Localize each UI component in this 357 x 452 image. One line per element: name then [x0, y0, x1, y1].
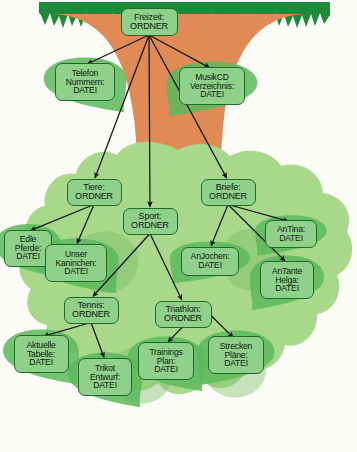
tree-node-anjochen[interactable]: AnJochen: DATEI [181, 247, 239, 276]
tree-node-sport[interactable]: Sport: ORDNER [123, 208, 178, 235]
tree-node-briefe[interactable]: Briefe: ORDNER [201, 179, 256, 206]
tree-node-aktuelle_tabelle[interactable]: Aktuelle Tabelle: DATEI [14, 335, 69, 373]
tree-node-trainings_plan[interactable]: Trainings Plan: DATEI [138, 342, 194, 380]
tree-node-strecken_plaene[interactable]: Strecken Pläne: DATEI [208, 336, 264, 374]
tree-diagram-canvas: Freizeit: ORDNERTelefon Nummern: DATEIMu… [0, 0, 357, 452]
tree-node-telefon_nummern[interactable]: Telefon Nummern: DATEI [55, 63, 115, 101]
tree-node-musikcd_verzeichnis[interactable]: MusikCD Verzeichnis: DATEI [179, 67, 245, 105]
tree-node-triathlon[interactable]: Triathlon: ORDNER [155, 301, 212, 328]
tree-node-unser_kaninchen[interactable]: Unser Kaninchen: DATEI [45, 244, 107, 282]
tree-node-antante_helga[interactable]: AnTante Helga: DATEI [260, 261, 314, 299]
tree-node-tennis[interactable]: Tennis: ORDNER [64, 297, 119, 324]
tree-node-trikot_entwurf[interactable]: Trikot Entwurf: DATEI [78, 358, 132, 396]
tree-node-antina[interactable]: AnTina: DATEI [265, 220, 317, 248]
tree-node-tiere[interactable]: Tiere: ORDNER [67, 179, 122, 206]
tree-node-freizeit[interactable]: Freizeit: ORDNER [121, 8, 178, 36]
